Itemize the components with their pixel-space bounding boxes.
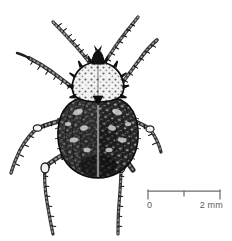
pronotum (67, 45, 129, 102)
front-right-leg (120, 40, 157, 86)
beetle-illustration-figure: 0 2 mm (0, 0, 232, 241)
middle-left-leg (11, 120, 64, 173)
head (92, 45, 104, 64)
scale-bar: 0 2 mm (147, 188, 221, 214)
scale-bar-label-right: 2 mm (200, 201, 223, 210)
scale-bar-label-left: 0 (147, 201, 152, 210)
right-antenna (104, 17, 138, 64)
left-antenna (53, 22, 92, 66)
elytra (55, 95, 141, 178)
